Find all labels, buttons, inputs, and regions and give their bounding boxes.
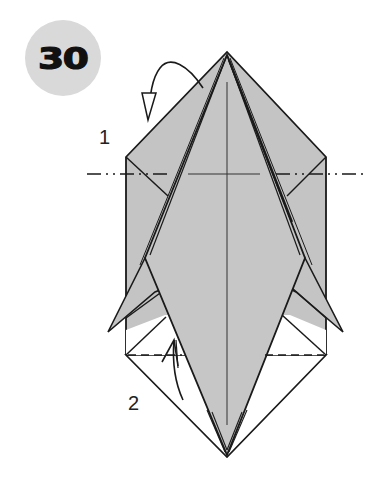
fold-1-label: 1 [99, 126, 110, 149]
fold-2-label: 2 [128, 392, 139, 415]
origami-diagram [0, 0, 385, 480]
